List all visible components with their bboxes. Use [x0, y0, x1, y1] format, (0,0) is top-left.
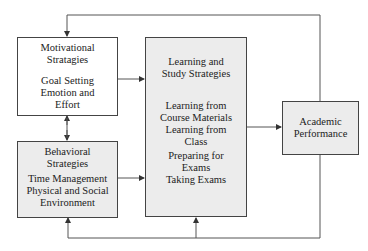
performance-title-1: Academic	[299, 116, 342, 128]
learning-item-2: Course Materials	[160, 112, 232, 124]
learning-study-strategies-box: Learning and Study Strategies Learning f…	[145, 37, 247, 217]
motivational-item-2: Emotion and	[41, 87, 95, 99]
academic-performance-box: Academic Performance	[282, 101, 359, 155]
behavioral-title-2: Strategies	[47, 158, 88, 170]
learning-item-4: Class	[185, 136, 208, 148]
behavioral-strategies-box: Behavioral Strategies Time Management Ph…	[17, 141, 118, 218]
behavioral-item-2: Physical and Social	[26, 185, 108, 197]
motivational-item-1: Goal Setting	[41, 75, 94, 87]
motivational-strategies-box: Motivational Stratagies Goal Setting Emo…	[17, 37, 118, 116]
motivational-item-3: Effort	[55, 99, 80, 111]
learning-item-7: Taking Exams	[166, 174, 226, 186]
behavioral-title-1: Behavioral	[44, 146, 90, 158]
behavioral-item-1: Time Management	[28, 173, 107, 185]
motivational-title-1: Motivational	[40, 42, 94, 54]
motivational-title-2: Stratagies	[47, 54, 88, 66]
learning-item-1: Learning from	[166, 100, 227, 112]
learning-item-5: Preparing for	[168, 150, 224, 162]
performance-title-2: Performance	[294, 128, 348, 140]
learning-title-1: Learning and	[168, 56, 224, 68]
learning-item-6: Exams	[182, 162, 211, 174]
learning-item-3: Learning from	[166, 124, 227, 136]
learning-title-2: Study Strategies	[162, 68, 231, 80]
behavioral-item-3: Environment	[40, 197, 95, 209]
